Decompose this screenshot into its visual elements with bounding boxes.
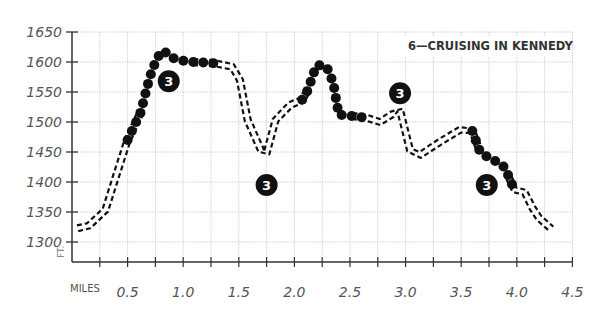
trail-dashed-line [353,109,483,152]
difficulty-badge-label: 3 [262,178,271,193]
elevation-chart: 16501600155015001450140013501300 0.51.01… [0,0,603,323]
trail-dot [471,135,481,145]
trail-dot [302,86,312,96]
trail-dot [135,108,145,118]
difficulty-badges: 3333 [158,70,498,196]
x-tick-labels: 0.51.01.52.02.53.03.54.04.5 [100,257,584,300]
trail-dot [161,47,171,57]
trail-dot [146,69,156,79]
y-tick-label: 1350 [26,204,62,220]
x-tick-label: 3.5 [450,284,472,300]
trail-dot [306,77,316,87]
x-tick-label: 1.5 [228,284,250,300]
x-tick-label: 2.0 [283,284,305,300]
trail-dashed-line [512,177,554,227]
x-axis-label: MILES [70,283,100,294]
y-axis-label: FT. [56,246,66,258]
trail-dot [490,156,500,166]
trail-dashed-line [193,59,305,152]
trail-dot [169,53,179,63]
x-tick-label: 0.5 [116,284,138,300]
y-tick-label: 1450 [26,144,62,160]
y-tick-label: 1650 [26,24,62,40]
trail-dot [498,161,508,171]
trail-dashed-line [193,65,310,155]
trail-dot [481,151,491,161]
chart-title: 6—CRUISING IN KENNEDY [408,39,574,53]
x-tick-label: 1.0 [172,284,194,300]
difficulty-badge-label: 3 [396,86,405,101]
y-tick-labels: 16501600155015001450140013501300 [26,24,78,250]
trail-dot [140,89,150,99]
trail-dot [326,73,336,83]
elevation-profile-line [77,47,553,231]
trail-dot [143,79,153,89]
trail-dot [337,110,347,120]
y-tick-label: 1600 [26,54,62,70]
x-tick-label: 2.5 [339,284,361,300]
trail-dot [138,98,148,108]
y-tick-label: 1400 [26,174,62,190]
y-tick-label: 1550 [26,84,62,100]
x-tick-label: 4.0 [506,284,528,300]
difficulty-badge-label: 3 [164,74,173,89]
x-tick-label: 3.0 [394,284,416,300]
trail-dot [323,64,333,74]
trail-dot [149,60,159,70]
trail-dot [467,126,477,136]
y-tick-label: 1500 [26,114,62,130]
trail-dot [329,83,339,93]
trail-dot [331,93,341,103]
trail-dot [297,95,307,105]
trail-dot [178,56,188,66]
difficulty-badge-label: 3 [482,178,491,193]
trail-dot [127,126,137,136]
x-tick-label: 4.5 [561,284,583,300]
trail-dot [123,135,133,145]
trail-dot [131,117,141,127]
